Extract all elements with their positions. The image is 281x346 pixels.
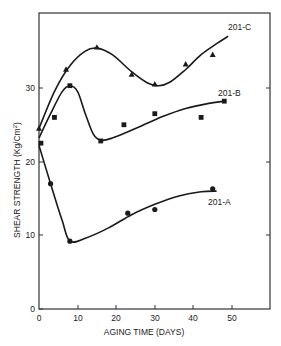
xtick-10: 10: [73, 313, 83, 323]
triangle-marker: [36, 125, 42, 130]
xtick-0: 0: [37, 313, 42, 323]
square-marker: [98, 139, 103, 144]
square-marker: [122, 122, 127, 127]
circle-marker: [210, 186, 215, 191]
ytick-0: 0: [30, 304, 35, 314]
y-axis: [39, 88, 270, 309]
y-tick-labels: 0 10 20 30: [26, 83, 36, 314]
series-curves: [39, 36, 228, 242]
label-201-a: 201-A: [208, 197, 231, 207]
plot-frame: [39, 13, 270, 309]
svg-text:SHEAR STRENGTH (Kg/Cm2): SHEAR STRENGTH (Kg/Cm2): [12, 122, 22, 238]
circle-marker: [152, 207, 157, 212]
y-axis-label-text: SHEAR STRENGTH (Kg/Cm: [12, 128, 22, 238]
curve-201-a: [39, 145, 217, 242]
square-marker: [199, 115, 204, 120]
ytick-10: 10: [26, 230, 36, 240]
label-201-c: 201-C: [228, 22, 251, 32]
x-axis-label: AGING TIME (DAYS): [104, 327, 185, 337]
curve-201-b: [39, 86, 224, 141]
square-marker: [52, 115, 57, 120]
y-axis-label: SHEAR STRENGTH (Kg/Cm2): [12, 122, 22, 238]
ytick-20: 20: [26, 157, 36, 167]
circle-marker: [125, 211, 130, 216]
label-201-b: 201-B: [218, 88, 241, 98]
xtick-50: 50: [227, 313, 237, 323]
shear-strength-chart: 0 10 20 30 0 10 20 30 40 50 AGING TIME (…: [0, 0, 281, 346]
square-marker: [152, 111, 157, 116]
xtick-30: 30: [150, 313, 160, 323]
triangle-marker: [152, 81, 158, 86]
ytick-30: 30: [26, 83, 36, 93]
circle-marker: [48, 181, 53, 186]
triangle-marker: [210, 52, 216, 57]
x-tick-labels: 0 10 20 30 40 50: [37, 313, 237, 323]
triangle-marker: [183, 61, 189, 66]
square-marker: [67, 83, 72, 88]
curve-201-c: [39, 36, 228, 128]
triangle-marker: [94, 44, 100, 49]
circle-marker: [67, 239, 72, 244]
square-marker: [39, 141, 44, 146]
xtick-20: 20: [111, 313, 121, 323]
y-axis-label-close: ): [12, 122, 22, 125]
xtick-40: 40: [188, 313, 198, 323]
square-marker: [222, 99, 227, 104]
